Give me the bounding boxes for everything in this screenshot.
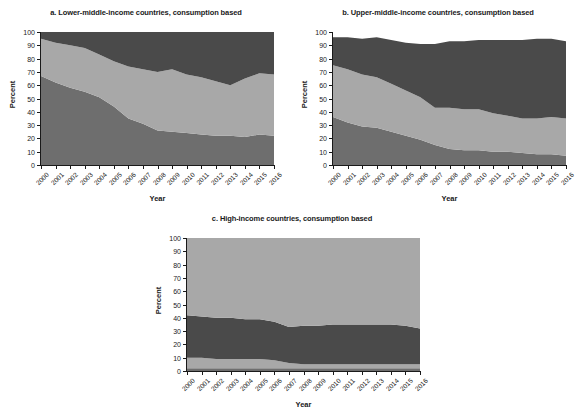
y-tick-label: 30 [307, 122, 327, 129]
y-tick-label: 80 [15, 55, 35, 62]
x-tick-mark [391, 166, 392, 169]
y-tick-label: 30 [161, 328, 181, 335]
y-tick-label: 10 [307, 148, 327, 155]
panel-b-xlabel: Year [333, 194, 566, 203]
y-tick-mark [183, 251, 186, 252]
y-axis-line [332, 32, 333, 166]
x-tick-mark [85, 166, 86, 169]
y-tick-label: 100 [15, 29, 35, 36]
x-tick-mark [216, 372, 217, 375]
y-tick-mark [183, 371, 186, 372]
y-tick-label: 60 [161, 288, 181, 295]
y-tick-mark [329, 99, 332, 100]
x-tick-mark [522, 166, 523, 169]
y-tick-mark [183, 318, 186, 319]
y-tick-mark [329, 72, 332, 73]
y-tick-label: 60 [307, 82, 327, 89]
x-tick-mark [420, 166, 421, 169]
y-tick-label: 80 [307, 55, 327, 62]
y-tick-mark [37, 72, 40, 73]
y-tick-mark [329, 112, 332, 113]
x-tick-mark [202, 372, 203, 375]
y-tick-mark [329, 125, 332, 126]
y-tick-label: 50 [307, 95, 327, 102]
panel-c-plot-area [187, 238, 420, 371]
y-tick-mark [37, 85, 40, 86]
x-tick-mark [187, 372, 188, 375]
x-tick-mark [187, 166, 188, 169]
y-tick-mark [329, 165, 332, 166]
y-tick-label: 60 [15, 82, 35, 89]
y-tick-label: 0 [161, 368, 181, 375]
y-tick-label: 40 [161, 314, 181, 321]
chart-panel-c: c. High-income countries, consumption ba… [146, 214, 438, 412]
y-tick-label: 50 [15, 95, 35, 102]
x-tick-mark [391, 372, 392, 375]
x-tick-mark [450, 166, 451, 169]
panel-b-title: b. Upper-middle-income countries, consum… [292, 8, 584, 17]
y-tick-label: 70 [307, 68, 327, 75]
y-tick-mark [329, 59, 332, 60]
y-tick-mark [183, 331, 186, 332]
y-tick-label: 0 [15, 162, 35, 169]
y-tick-mark [183, 278, 186, 279]
y-tick-mark [37, 99, 40, 100]
y-tick-label: 70 [161, 274, 181, 281]
x-tick-mark [362, 166, 363, 169]
x-tick-mark [245, 372, 246, 375]
chart-panel-b: b. Upper-middle-income countries, consum… [292, 8, 584, 206]
y-axis-line [40, 32, 41, 166]
x-tick-mark [143, 166, 144, 169]
y-tick-mark [329, 85, 332, 86]
y-tick-mark [329, 138, 332, 139]
y-tick-label: 20 [15, 135, 35, 142]
x-tick-mark [260, 372, 261, 375]
x-tick-mark [435, 166, 436, 169]
x-tick-mark [333, 372, 334, 375]
y-tick-label: 10 [15, 148, 35, 155]
panel-c-title: c. High-income countries, consumption ba… [146, 214, 438, 223]
y-tick-label: 100 [307, 29, 327, 36]
x-tick-mark [274, 372, 275, 375]
y-tick-mark [37, 45, 40, 46]
y-axis-line [186, 238, 187, 372]
x-tick-mark [158, 166, 159, 169]
x-tick-mark [347, 372, 348, 375]
x-tick-mark [420, 372, 421, 375]
panel-a-area-series [41, 32, 274, 165]
x-tick-mark [259, 166, 260, 169]
x-tick-mark [464, 166, 465, 169]
y-tick-mark [37, 32, 40, 33]
y-tick-label: 10 [161, 354, 181, 361]
y-tick-mark [37, 125, 40, 126]
x-tick-mark [318, 372, 319, 375]
y-tick-mark [183, 358, 186, 359]
y-tick-mark [183, 238, 186, 239]
chart-panel-a: a. Lower-middle-income countries, consum… [0, 8, 292, 206]
x-tick-mark [41, 166, 42, 169]
y-tick-mark [329, 32, 332, 33]
x-tick-mark [508, 166, 509, 169]
x-tick-mark [333, 166, 334, 169]
y-tick-mark [329, 45, 332, 46]
y-tick-mark [37, 138, 40, 139]
x-tick-mark [216, 166, 217, 169]
x-tick-mark [245, 166, 246, 169]
panel-c-plot [187, 238, 420, 371]
y-tick-mark [37, 152, 40, 153]
x-tick-mark [406, 166, 407, 169]
panel-b-area-series [333, 32, 566, 165]
x-tick-mark [231, 372, 232, 375]
y-tick-mark [37, 59, 40, 60]
y-tick-label: 90 [15, 42, 35, 49]
y-tick-mark [329, 152, 332, 153]
x-tick-mark [128, 166, 129, 169]
y-tick-mark [183, 344, 186, 345]
x-tick-mark [348, 166, 349, 169]
y-tick-mark [183, 265, 186, 266]
panel-c-xlabel: Year [187, 400, 420, 409]
y-tick-label: 100 [161, 235, 181, 242]
y-tick-label: 50 [161, 301, 181, 308]
x-tick-mark [376, 372, 377, 375]
panel-a-title: a. Lower-middle-income countries, consum… [0, 8, 292, 17]
